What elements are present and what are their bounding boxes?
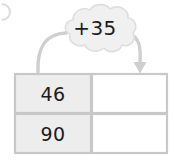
worksheet-canvas: +35 46 90	[0, 0, 175, 161]
output-answer-row2[interactable]	[92, 114, 167, 153]
output-answer-row1[interactable]	[92, 74, 167, 113]
edge-mark-icon	[2, 4, 10, 20]
operation-label: +35	[62, 14, 128, 42]
input-value-row2: 90	[15, 114, 91, 153]
input-value-row1: 46	[15, 74, 91, 113]
